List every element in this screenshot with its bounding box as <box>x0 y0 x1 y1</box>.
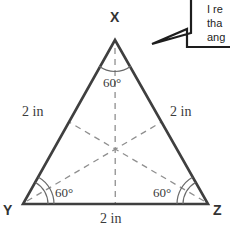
angle-arc-y <box>36 177 55 204</box>
angle-label-y: 60° <box>55 186 73 199</box>
side-label-xy: 2 in <box>22 105 43 119</box>
side-label-yz: 2 in <box>100 212 121 226</box>
geometry-figure-canvas: X Y Z 2 in 2 in 2 in 60° 60° 60° I re th… <box>0 0 230 230</box>
angle-label-x: 60° <box>103 76 121 89</box>
speech-bubble-line-2: tha <box>207 16 222 30</box>
side-label-xz: 2 in <box>170 105 191 119</box>
angle-arc-z <box>177 177 196 204</box>
speech-bubble-line-1: I re <box>207 2 223 16</box>
vertex-label-y: Y <box>3 203 12 217</box>
vertex-label-x: X <box>110 10 119 24</box>
vertex-label-z: Z <box>213 203 222 217</box>
speech-bubble-line-3: ang <box>207 30 225 44</box>
angle-label-z: 60° <box>153 186 171 199</box>
